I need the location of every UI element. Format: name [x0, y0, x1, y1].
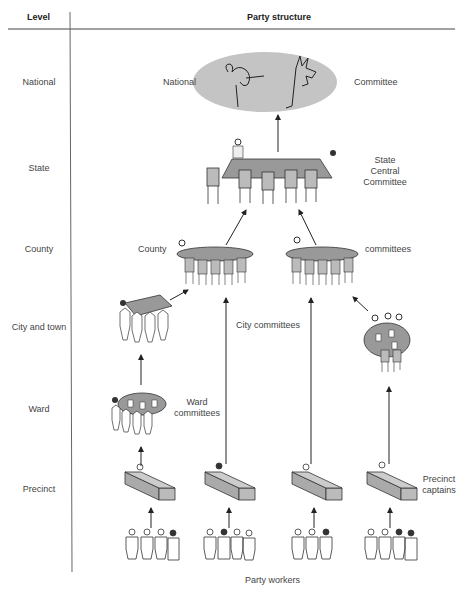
worker-group-3: [292, 529, 332, 559]
party-worker-groups: [126, 529, 417, 560]
ward-committee-node: [112, 393, 166, 434]
arrow-county-right-to-state: [299, 210, 316, 245]
national-committee-node: [193, 52, 337, 112]
column-divider: [70, 12, 72, 572]
label-national-committee: Committee: [354, 77, 398, 88]
label-national: National: [163, 77, 196, 88]
label-state-central-committee: State Central Committee: [360, 155, 410, 188]
arrow-city-left-to-county: [170, 290, 188, 300]
label-county-committees: committees: [365, 244, 411, 255]
label-party-workers: Party workers: [245, 575, 300, 586]
county-committee-right-node: [286, 237, 358, 285]
precinct-desk-2: [205, 472, 255, 500]
precinct-desk-1: [125, 472, 175, 500]
arrow-city-right-to-county: [353, 297, 368, 311]
label-city-committees: City committees: [236, 320, 300, 331]
worker-group-4: [365, 529, 417, 560]
state-central-committee-node: [207, 139, 336, 204]
precinct-desk-3: [292, 472, 342, 500]
label-ward-committees: Ward committees: [171, 397, 223, 419]
precinct-desk-4: [367, 472, 417, 500]
city-committee-left-node: [120, 295, 172, 342]
label-precinct-captains: Precinct captains: [418, 474, 460, 496]
worker-group-2: [204, 529, 255, 560]
label-county: County: [138, 244, 167, 255]
worker-group-1: [126, 529, 179, 560]
arrow-county-left-to-state: [226, 210, 246, 245]
party-structure-diagram: [0, 0, 463, 590]
precinct-desks: [125, 472, 417, 500]
city-committee-right-node: [364, 313, 410, 372]
county-committee-left-node: [177, 240, 253, 285]
